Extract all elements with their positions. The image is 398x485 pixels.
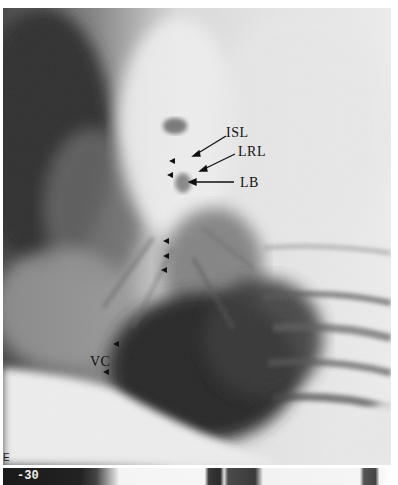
radiograph-panel: ISL LRL LB VC [3,8,391,465]
label-isl: ISL [226,126,249,140]
next-panel-strip: -30 [3,468,391,485]
radiograph-image [3,8,391,465]
label-lb: LB [240,176,259,190]
strip-number: -30 [17,469,39,483]
panel-letter: E [3,452,10,463]
label-vc: VC [90,355,110,369]
label-lrl: LRL [238,145,266,159]
